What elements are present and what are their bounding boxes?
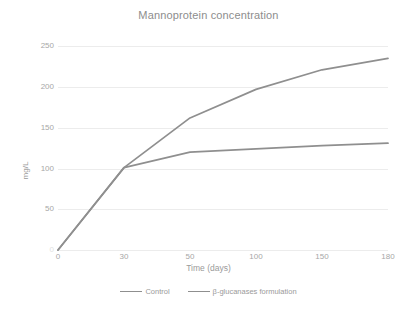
x-axis-tick-label: 30: [104, 252, 144, 261]
y-axis-tick-label: 250: [14, 42, 54, 50]
legend-label: β-glucanases formulation: [213, 287, 297, 296]
legend-item[interactable]: β-glucanases formulation: [188, 287, 297, 296]
series-line: [58, 143, 388, 250]
plot-area: [58, 38, 388, 250]
y-axis-tick-label: 50: [14, 205, 54, 213]
chart-legend: Controlβ-glucanases formulation: [0, 287, 417, 296]
y-axis-tick-labels: mg/L 050100150200250: [14, 38, 54, 250]
legend-item[interactable]: Control: [120, 287, 169, 296]
chart-title: Mannoprotein concentration: [0, 9, 417, 21]
legend-line-swatch: [188, 291, 210, 293]
y-axis-tick-label: 100: [14, 165, 54, 173]
chart-container: Mannoprotein concentration mg/L 05010015…: [0, 0, 417, 312]
y-axis-tick-label: 200: [14, 83, 54, 91]
series-line: [58, 58, 388, 250]
gridline: [58, 250, 388, 251]
x-axis-tick-label: 0: [38, 252, 78, 261]
x-axis-tick-label: 100: [236, 252, 276, 261]
x-axis-tick-label: 150: [302, 252, 342, 261]
series-lines: [58, 38, 388, 250]
legend-label: Control: [145, 287, 169, 296]
x-axis-tick-label: 180: [368, 252, 408, 261]
x-axis-tick-label: 50: [170, 252, 210, 261]
y-axis-tick-label: 150: [14, 124, 54, 132]
x-axis-title: Time (days): [0, 263, 417, 273]
legend-line-swatch: [120, 291, 142, 293]
